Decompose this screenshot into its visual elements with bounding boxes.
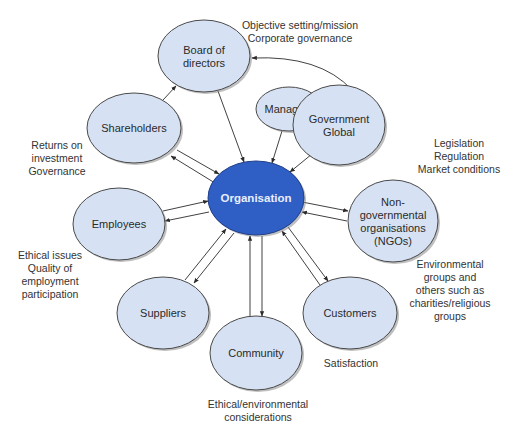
annotation-line: Objective setting/mission bbox=[242, 19, 358, 31]
annotation-line: investment bbox=[32, 152, 83, 164]
annotation-line: charities/religious bbox=[409, 297, 490, 309]
node-employees: Employees bbox=[73, 188, 167, 262]
node-suppliers: Suppliers bbox=[117, 277, 211, 351]
node-label: Customers bbox=[323, 307, 377, 319]
annotation-line: Ethical issues bbox=[18, 249, 82, 261]
annotation-line: Ethical/environmental bbox=[208, 398, 308, 410]
edge-suppliers-to-organisation bbox=[185, 229, 226, 280]
node-label: organisations bbox=[360, 222, 426, 234]
customers-annotation: Satisfaction bbox=[324, 357, 378, 369]
annotation-line: Legislation bbox=[434, 137, 484, 149]
annotation-line: participation bbox=[22, 288, 79, 300]
annotation-line: employment bbox=[21, 275, 78, 287]
node-label: Non- bbox=[381, 196, 405, 208]
annotation-line: groups bbox=[434, 310, 466, 322]
community-annotation: Ethical/environmentalconsiderations bbox=[208, 398, 308, 423]
node-board: Board ofdirectors bbox=[158, 20, 252, 94]
ngos-annotation: Environmentalgroups andothers such ascha… bbox=[409, 258, 490, 322]
edge-customers-to-organisation bbox=[282, 231, 320, 285]
edge-ngos-to-organisation bbox=[302, 212, 347, 221]
annotation-line: Environmental bbox=[416, 258, 483, 270]
board-annotation: Objective setting/missionCorporate gover… bbox=[242, 19, 358, 44]
node-organisation: Organisation bbox=[208, 161, 306, 237]
annotation-line: groups and bbox=[424, 271, 477, 283]
nodes-layer: OrganisationBoard ofdirectorsManagersGov… bbox=[73, 20, 440, 392]
edge-managers-to-organisation bbox=[272, 131, 282, 163]
government-annotation: LegislationRegulationMarket conditions bbox=[418, 137, 500, 175]
edge-shareholders-to-organisation bbox=[177, 150, 219, 174]
annotation-line: Governance bbox=[28, 165, 85, 177]
edge-board-to-organisation bbox=[218, 91, 244, 162]
node-label: Shareholders bbox=[101, 122, 167, 134]
node-label: Community bbox=[228, 347, 284, 359]
node-label: directors bbox=[183, 57, 226, 69]
annotation-line: Satisfaction bbox=[324, 357, 378, 369]
node-label: governmental bbox=[360, 209, 427, 221]
annotation-line: others such as bbox=[416, 284, 484, 296]
annotation-line: Returns on bbox=[31, 139, 83, 151]
annotation-line: Market conditions bbox=[418, 163, 500, 175]
edge-shareholders-to-board bbox=[163, 86, 176, 100]
node-label: Global bbox=[323, 126, 355, 138]
annotation-line: Quality of bbox=[28, 262, 72, 274]
edge-organisation-to-shareholders bbox=[171, 156, 215, 183]
node-label: (NGOs) bbox=[374, 235, 412, 247]
edge-organisation-to-suppliers bbox=[194, 233, 234, 283]
annotation-line: Regulation bbox=[434, 150, 484, 162]
annotation-line: Corporate governance bbox=[248, 32, 353, 44]
node-label: Organisation bbox=[221, 192, 292, 204]
employees-annotation: Ethical issuesQuality ofemploymentpartic… bbox=[18, 249, 82, 300]
edge-employees-to-organisation bbox=[163, 201, 208, 211]
node-label: Board of bbox=[183, 44, 226, 56]
node-government: GovernmentGlobal bbox=[293, 85, 387, 167]
edge-organisation-to-employees bbox=[165, 212, 209, 221]
node-community: Community bbox=[210, 316, 304, 392]
node-ngos: Non-governmentalorganisations(NGOs) bbox=[348, 180, 440, 264]
edge-government-to-organisation bbox=[290, 154, 312, 172]
stakeholder-diagram: OrganisationBoard ofdirectorsManagersGov… bbox=[0, 0, 508, 438]
node-label: Employees bbox=[92, 218, 147, 230]
edge-organisation-to-customers bbox=[288, 227, 328, 281]
edge-organisation-to-ngos bbox=[302, 202, 348, 211]
annotation-line: considerations bbox=[224, 411, 292, 423]
node-shareholders: Shareholders bbox=[87, 93, 183, 165]
shareholders-annotation: Returns oninvestmentGovernance bbox=[28, 139, 85, 177]
node-label: Suppliers bbox=[140, 307, 186, 319]
node-label: Government bbox=[309, 113, 370, 125]
node-customers: Customers bbox=[303, 277, 399, 351]
